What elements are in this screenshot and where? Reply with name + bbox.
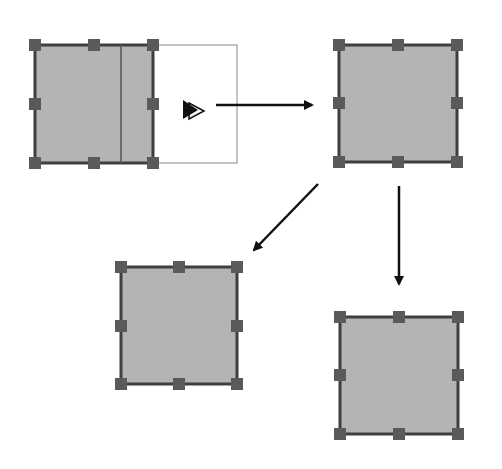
- handle-top-right[interactable]: [147, 39, 159, 51]
- result-shape-bottom-left[interactable]: [115, 261, 243, 390]
- result-shape-top-right[interactable]: [333, 39, 463, 168]
- handle-top-left[interactable]: [333, 39, 345, 51]
- handle-middle-left[interactable]: [334, 369, 346, 381]
- arrow-down-left-icon: [254, 184, 318, 250]
- handle-top-right[interactable]: [451, 39, 463, 51]
- handle-bottom-left[interactable]: [333, 156, 345, 168]
- handle-middle-right[interactable]: [231, 320, 243, 332]
- handle-bottom-middle[interactable]: [393, 428, 405, 440]
- handle-top-left[interactable]: [115, 261, 127, 273]
- result-shape-bottom-right[interactable]: [334, 311, 464, 440]
- handle-middle-right[interactable]: [452, 369, 464, 381]
- handle-middle-right[interactable]: [451, 97, 463, 109]
- handle-middle-right[interactable]: [147, 98, 159, 110]
- handle-bottom-middle[interactable]: [173, 378, 185, 390]
- handle-top-left[interactable]: [29, 39, 41, 51]
- source-shape[interactable]: [29, 39, 159, 169]
- resize-diagram: [0, 0, 502, 469]
- handle-bottom-right[interactable]: [231, 378, 243, 390]
- handle-bottom-left[interactable]: [29, 157, 41, 169]
- handle-top-right[interactable]: [452, 311, 464, 323]
- handle-bottom-left[interactable]: [115, 378, 127, 390]
- handle-bottom-right[interactable]: [147, 157, 159, 169]
- handle-middle-left[interactable]: [333, 97, 345, 109]
- handle-top-middle[interactable]: [88, 39, 100, 51]
- handle-middle-left[interactable]: [29, 98, 41, 110]
- handle-bottom-left[interactable]: [334, 428, 346, 440]
- handle-top-left[interactable]: [334, 311, 346, 323]
- handle-bottom-middle[interactable]: [392, 156, 404, 168]
- handle-middle-left[interactable]: [115, 320, 127, 332]
- handle-top-middle[interactable]: [393, 311, 405, 323]
- resize-drag-cursor-icon: [183, 100, 204, 119]
- handle-bottom-middle[interactable]: [88, 157, 100, 169]
- handle-bottom-right[interactable]: [452, 428, 464, 440]
- handle-top-middle[interactable]: [392, 39, 404, 51]
- handle-top-middle[interactable]: [173, 261, 185, 273]
- handle-top-right[interactable]: [231, 261, 243, 273]
- handle-bottom-right[interactable]: [451, 156, 463, 168]
